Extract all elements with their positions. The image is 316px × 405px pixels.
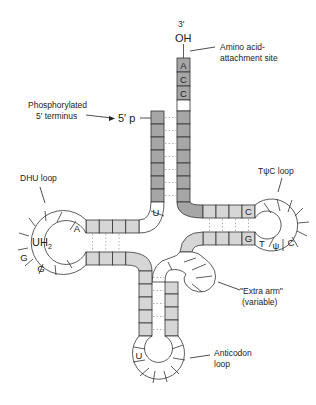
phospho-label-1: Phosphorylated (28, 100, 87, 110)
amino-acid-label-2: attachment site (220, 53, 278, 63)
base-g1-dhu: G (20, 252, 27, 263)
extra-arm-label-1: "Extra arm" (240, 286, 283, 296)
base-c-loop: C (288, 237, 295, 248)
base-u-acceptor: U (153, 207, 160, 218)
dhu-loop: A G G UH2 (18, 211, 86, 276)
base-c1: C (180, 74, 187, 85)
base-psi-loop: ψ (273, 240, 280, 251)
tpsic-loop: T ψ C (255, 199, 309, 251)
uh2-label: UH2 (32, 236, 52, 250)
tpsic-loop-label: TψC loop (258, 166, 294, 176)
base-u-anticodon: U (136, 350, 143, 361)
base-g2-dhu: G (37, 263, 44, 274)
five-prime-p-label: 5′ p (118, 112, 135, 124)
three-prime-label: 3′ (178, 19, 185, 29)
base-a: A (180, 60, 187, 71)
connector-acceptor-dstem: U (139, 202, 164, 233)
oh-label: OH (175, 32, 192, 44)
anticodon-loop-label-2: loop (214, 359, 230, 369)
base-a-dhu: A (74, 223, 81, 234)
base-g-tstem: G (245, 233, 252, 244)
trna-diagram: A C C U (0, 0, 316, 405)
base-c2: C (180, 88, 187, 99)
extra-arm-label-2: (variable) (242, 297, 278, 307)
base-c-tstem: C (245, 206, 252, 217)
amino-acid-label-1: Amino acid- (220, 42, 265, 52)
anticodon-loop: U (133, 336, 185, 383)
connector-acceptor-tstem (177, 202, 203, 218)
phospho-label-2: 5′ terminus (36, 111, 77, 121)
anticodon-loop-label-1: Anticodon (214, 348, 252, 358)
dhu-loop-label: DHU loop (20, 173, 57, 183)
extra-arm (152, 252, 216, 292)
acceptor-stem: A C C (151, 44, 190, 202)
base-t-loop: T (259, 238, 265, 249)
